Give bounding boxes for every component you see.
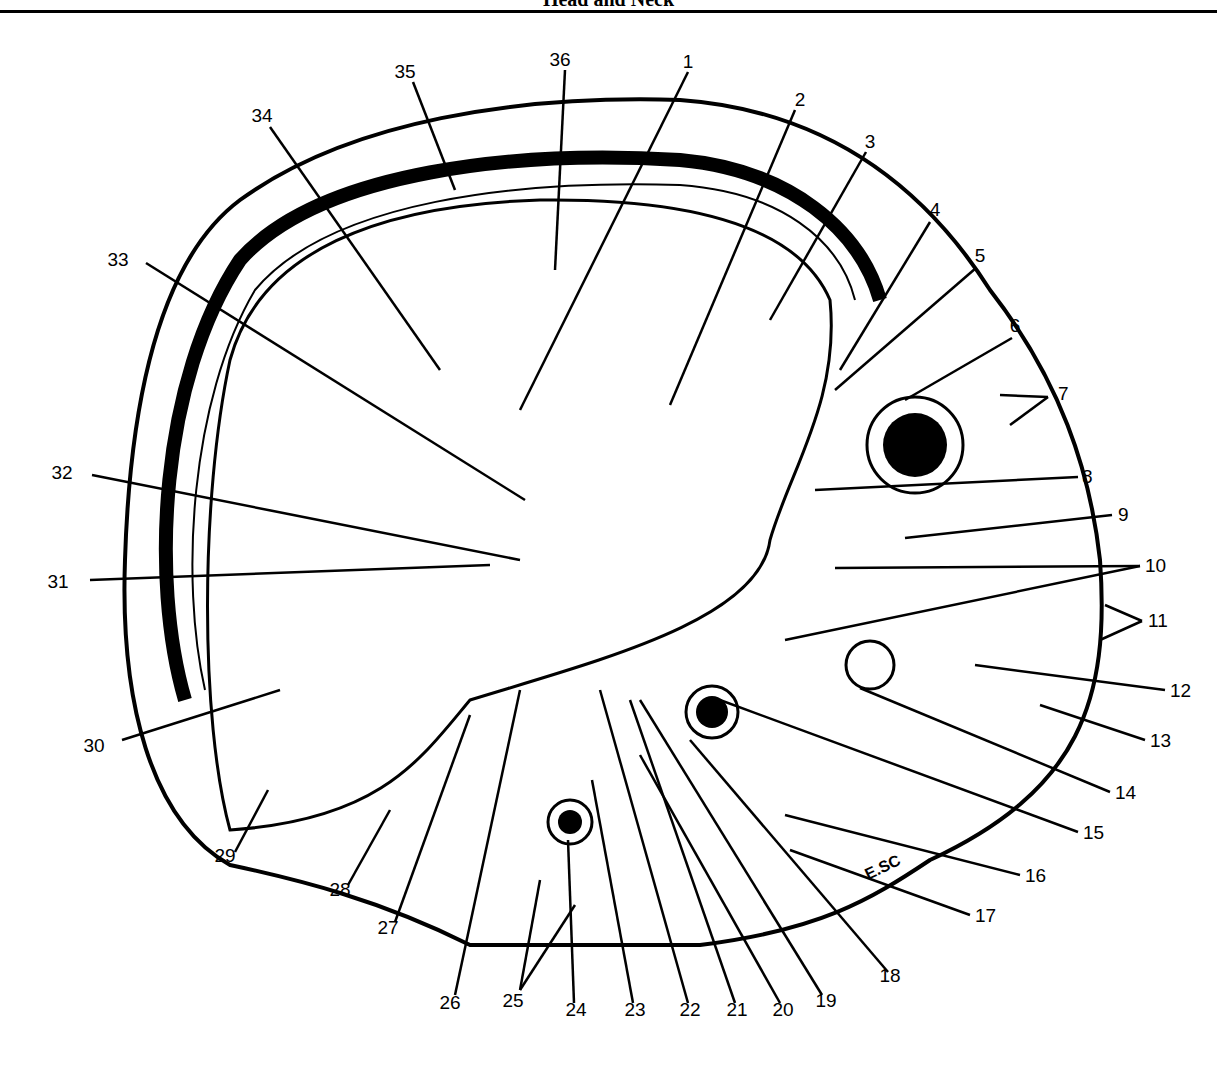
label-25: 25 [502, 990, 523, 1011]
label-30: 30 [83, 735, 104, 756]
label-12: 12 [1170, 680, 1191, 701]
label-21: 21 [726, 999, 747, 1020]
anatomical-cross-section-figure: E.SC [0, 0, 1217, 1067]
label-20: 20 [772, 999, 793, 1020]
label-23: 23 [624, 999, 645, 1020]
label-28: 28 [329, 879, 350, 900]
label-8: 8 [1082, 466, 1093, 487]
label-14: 14 [1115, 782, 1137, 803]
label-34: 34 [251, 105, 273, 126]
label-31: 31 [47, 571, 68, 592]
label-29: 29 [214, 845, 235, 866]
label-24: 24 [565, 999, 587, 1020]
label-9: 9 [1118, 504, 1129, 525]
label-36: 36 [549, 49, 570, 70]
label-5: 5 [975, 245, 986, 266]
structure-14 [846, 641, 894, 689]
label-27: 27 [377, 917, 398, 938]
label-15: 15 [1083, 822, 1104, 843]
label-16: 16 [1025, 865, 1046, 886]
label-1: 1 [683, 51, 694, 72]
label-7: 7 [1058, 383, 1069, 404]
label-26: 26 [439, 992, 460, 1013]
label-19: 19 [815, 990, 836, 1011]
label-22: 22 [679, 999, 700, 1020]
eye-pupil [883, 413, 947, 477]
label-6: 6 [1010, 315, 1021, 336]
label-32: 32 [51, 462, 72, 483]
label-17: 17 [975, 905, 996, 926]
vessel-24-lumen [558, 810, 582, 834]
label-3: 3 [865, 131, 876, 152]
label-4: 4 [930, 199, 941, 220]
label-11: 11 [1148, 610, 1168, 631]
label-35: 35 [394, 61, 415, 82]
label-2: 2 [795, 89, 806, 110]
label-18: 18 [879, 965, 900, 986]
label-33: 33 [107, 249, 128, 270]
label-13: 13 [1150, 730, 1171, 751]
label-10: 10 [1145, 555, 1166, 576]
